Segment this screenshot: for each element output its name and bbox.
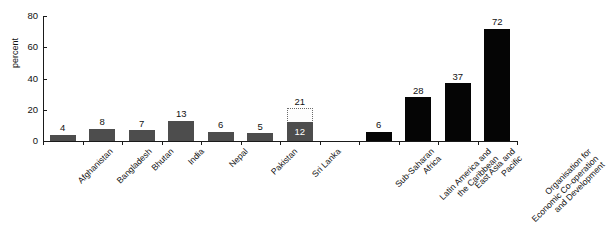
bar-nepal[interactable]	[208, 132, 234, 141]
bar-group-bhutan[interactable]: 7	[122, 16, 162, 141]
x-tick-6	[280, 141, 281, 145]
bar-east-asia-pacific[interactable]	[445, 83, 471, 141]
bar-sub-saharan-africa[interactable]	[366, 132, 392, 141]
bar-value-east-asia-pacific: 37	[452, 72, 463, 82]
x-label-line: Bhutan	[150, 147, 176, 173]
x-label-oecd: Organisation forEconomic Co-operationand…	[524, 147, 607, 231]
x-label-pakistan: Pakistan	[270, 147, 300, 177]
x-tick-2	[122, 141, 123, 145]
x-label-line: Bangladesh	[116, 147, 155, 186]
bar-group-east-asia-pacific[interactable]: 37	[438, 16, 478, 141]
x-tick-9	[399, 141, 400, 145]
x-label-sri-lanka: Sri Lanka	[310, 147, 342, 179]
x-tick-4	[201, 141, 202, 145]
bar-oecd[interactable]	[484, 29, 510, 142]
y-tick-label-40: 40	[0, 74, 38, 84]
x-label-afghanistan: Afghanistan	[76, 147, 115, 186]
y-tick-label-20: 20	[0, 105, 38, 115]
x-label-line: Afghanistan	[76, 147, 115, 186]
x-tick-10	[438, 141, 439, 145]
x-label-sub-saharan-africa: Sub-SaharanAfrica	[394, 147, 443, 196]
bar-value-bhutan: 7	[139, 119, 144, 129]
bar-bangladesh[interactable]	[89, 129, 115, 142]
bar-group-sub-saharan-africa[interactable]: 6	[359, 16, 399, 141]
bar-value-india: 13	[176, 109, 187, 119]
plot-area: 487136521126283772	[43, 16, 517, 141]
bar-value-sub-saharan-africa: 6	[376, 120, 381, 130]
bar-india[interactable]	[168, 121, 194, 141]
bar-latin-america-caribbean[interactable]	[405, 97, 431, 141]
bar-value-latin-america-caribbean: 28	[413, 86, 424, 96]
bar-value-pakistan: 5	[258, 122, 263, 132]
bar-group-pakistan[interactable]: 5	[241, 16, 281, 141]
x-label-india: India	[187, 147, 207, 167]
x-label-line: Economic Co-operation	[530, 154, 600, 224]
x-label-bangladesh: Bangladesh	[116, 147, 155, 186]
bar-value-oecd: 72	[492, 17, 503, 27]
x-label-line: Nepal	[227, 147, 250, 170]
x-tick-5	[241, 141, 242, 145]
bar-group-nepal[interactable]: 6	[201, 16, 241, 141]
bar-value-afghanistan: 4	[60, 123, 65, 133]
x-tick-3	[162, 141, 163, 145]
bar-bhutan[interactable]	[129, 130, 155, 141]
bar-group-sri-lanka[interactable]: 2112	[280, 16, 320, 141]
bar-ghost-value-sri-lanka: 21	[294, 97, 305, 107]
bar-value-nepal: 6	[218, 120, 223, 130]
y-tick-label-60: 60	[0, 42, 38, 52]
bar-value-bangladesh: 8	[100, 117, 105, 127]
bar-group-latin-america-caribbean[interactable]: 28	[399, 16, 439, 141]
y-tick-label-80: 80	[0, 11, 38, 21]
x-tick-1	[83, 141, 84, 145]
x-tick-12	[517, 141, 518, 145]
bar-pakistan[interactable]	[247, 133, 273, 141]
bar-value-sri-lanka: 12	[294, 127, 305, 137]
y-tick-label-0: 0	[0, 136, 38, 146]
bar-group-india[interactable]: 13	[162, 16, 202, 141]
bar-group-bangladesh[interactable]: 8	[83, 16, 123, 141]
x-label-line: Sri Lanka	[310, 147, 342, 179]
x-tick-8	[359, 141, 360, 145]
x-label-line: India	[187, 147, 207, 167]
x-label-bhutan: Bhutan	[150, 147, 176, 173]
x-label-nepal: Nepal	[227, 147, 250, 170]
bar-group-oecd[interactable]: 72	[478, 16, 518, 141]
x-tick-11	[478, 141, 479, 145]
bar-group-afghanistan[interactable]: 4	[43, 16, 83, 141]
x-tick-7	[320, 141, 321, 145]
x-label-line: Pakistan	[270, 147, 300, 177]
x-tick-0	[43, 141, 44, 145]
